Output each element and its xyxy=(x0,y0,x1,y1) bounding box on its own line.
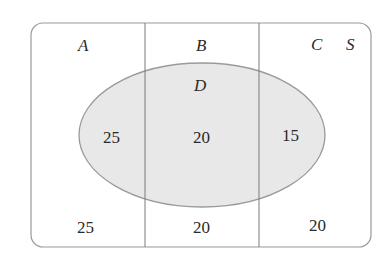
region-c-and-d: 15 xyxy=(282,126,299,145)
region-b-not-d: 20 xyxy=(193,218,210,237)
set-s-label: S xyxy=(346,35,355,54)
region-c-not-d: 20 xyxy=(309,216,326,235)
set-a-label: A xyxy=(77,36,89,55)
set-d-label: D xyxy=(193,76,207,95)
region-a-and-d: 25 xyxy=(103,128,120,147)
set-c-label: C xyxy=(311,35,323,54)
set-b-label: B xyxy=(196,36,207,55)
region-b-and-d: 20 xyxy=(193,128,210,147)
region-a-not-d: 25 xyxy=(77,218,94,237)
venn-diagram: A B C S D 25 20 15 25 20 20 xyxy=(0,0,390,257)
